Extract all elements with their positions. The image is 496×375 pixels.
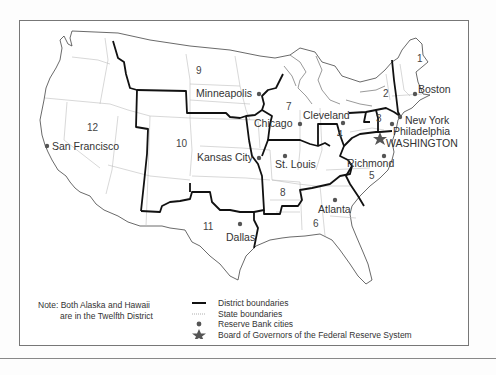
legend-item-board: Board of Governors of the Federal Reserv… [192,330,412,341]
district-number-12: 12 [87,123,98,133]
city-label-kansas-city: Kansas City [197,152,253,163]
note-line-1: Note: Both Alaska and Hawaii [38,300,150,310]
city-label-atlanta: Atlanta [318,204,351,215]
city-label-richmond: Richmond [347,158,394,169]
capital-label-washington: WASHINGTON [386,138,458,149]
dot-icon [192,319,212,329]
district-number-7: 7 [286,102,292,112]
district-number-11: 11 [203,222,213,232]
star-icon [373,132,387,145]
legend-item-district: District boundaries [192,298,412,309]
district-number-3: 3 [376,114,382,124]
city-label-minneapolis: Minneapolis [196,88,252,99]
district-number-5: 5 [369,171,375,181]
district-number-4: 4 [337,130,343,140]
star-icon [192,329,212,339]
legend-label: Board of Governors of the Federal Reserv… [218,330,412,340]
city-label-san-francisco: San Francisco [52,141,119,152]
district-number-1: 1 [417,54,423,64]
city-label-chicago: Chicago [254,118,293,129]
great-lakes [284,55,385,106]
note-line-2: are in the Twelfth District [38,311,153,322]
legend-label: District boundaries [218,298,288,308]
legend-item-reserve-bank: Reserve Bank cities [192,319,412,330]
district-number-6: 6 [313,219,319,229]
city-label-boston: Boston [418,84,451,95]
city-label-new-york: New York [405,115,449,126]
city-label-st-louis: St. Louis [275,159,316,170]
district-number-10: 10 [176,139,187,149]
legend-item-state: State boundaries [192,309,412,320]
city-label-dallas: Dallas [226,232,255,243]
district-number-8: 8 [280,188,286,198]
thick-line-icon [192,298,212,308]
dotted-line-icon [192,309,212,319]
legend: District boundaries State boundaries Res… [192,298,412,340]
map-note: Note: Both Alaska and Hawaii are in the … [38,300,153,322]
district-number-9: 9 [196,66,202,76]
city-label-cleveland: Cleveland [303,110,350,121]
state-boundaries [45,38,422,236]
city-label-philadelphia: Philadelphia [393,126,450,137]
district-boundaries [113,41,400,248]
legend-label: State boundaries [218,309,282,319]
legend-label: Reserve Bank cities [218,319,293,329]
district-number-2: 2 [383,89,389,99]
